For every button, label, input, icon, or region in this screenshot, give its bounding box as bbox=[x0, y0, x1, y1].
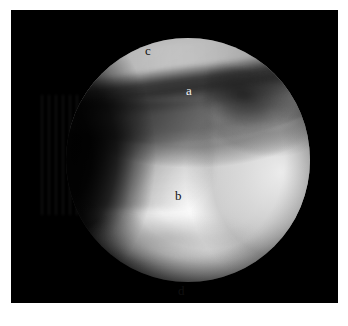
anatomical-label-a: a bbox=[186, 84, 192, 97]
figure-page: c a b d bbox=[0, 0, 348, 326]
anatomical-label-d: d bbox=[178, 284, 185, 297]
anatomical-label-c: c bbox=[145, 44, 151, 57]
image-plate: c a b d bbox=[11, 10, 338, 303]
arthroscopic-field-of-view bbox=[66, 38, 310, 282]
scope-rim-vignette bbox=[66, 38, 310, 282]
anatomical-label-b: b bbox=[175, 189, 182, 202]
